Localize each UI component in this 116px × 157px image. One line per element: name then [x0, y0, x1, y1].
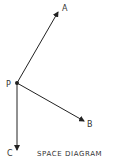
vector-pb: [17, 83, 84, 121]
origin-point-p: [15, 81, 19, 85]
diagram-title: SPACE DIAGRAM: [37, 150, 102, 157]
vector-pa: [17, 12, 58, 83]
label-a: A: [62, 4, 68, 13]
label-c: C: [7, 149, 13, 157]
label-b: B: [87, 120, 93, 129]
space-diagram: P A B C SPACE DIAGRAM: [0, 0, 116, 157]
label-p: P: [6, 80, 11, 89]
